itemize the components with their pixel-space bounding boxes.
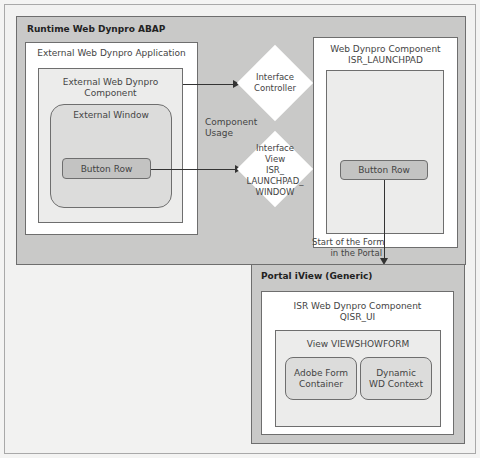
arrow-to-interface-view (151, 169, 235, 170)
adobe-form-container: Adobe Form Container (285, 357, 357, 400)
portal-iview-title: Portal iView (Generic) (261, 271, 372, 281)
launchpad-inner-box (326, 70, 444, 234)
runtime-title: Runtime Web Dynpro ABAP (27, 24, 165, 34)
interface-controller-label: Interface Controller (238, 62, 312, 104)
launchpad-component-title: Web Dynpro Component ISR_LAUNCHPAD (313, 44, 458, 66)
external-window-title: External Window (50, 110, 172, 121)
dynamic-wd-context: Dynamic WD Context (360, 357, 432, 400)
interface-view-label: Interface View ISR_ LAUNCHPAD_ WINDOW (234, 142, 316, 198)
viewshowform-title: View VIEWSHOWFORM (275, 339, 441, 350)
launchpad-button-row: Button Row (340, 160, 428, 180)
external-component-title: External Web Dynpro Component (38, 77, 183, 99)
arrow-start-of-form (384, 180, 385, 260)
component-usage-label: Component Usage (205, 117, 257, 139)
external-button-row: Button Row (62, 158, 151, 179)
external-application-title: External Web Dynpro Application (25, 48, 198, 59)
arrow-to-interface-controller (183, 84, 233, 85)
isr-component-title: ISR Web Dynpro Component QISR_UI (261, 301, 454, 323)
start-of-form-label: Start of the Form in the Portal (312, 237, 382, 259)
